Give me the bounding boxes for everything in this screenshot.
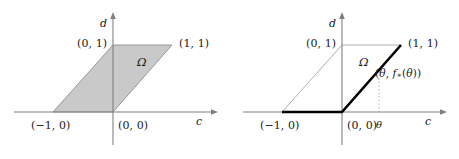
left-point-label-1-1: (1, 1) xyxy=(179,38,209,49)
panel-shaded-region: d c (0, 1) (1, 1) (−1, 0) (0, 0) Ω xyxy=(0,0,229,159)
figure-container: d c (0, 1) (1, 1) (−1, 0) (0, 0) Ω d c (… xyxy=(0,0,459,159)
right-point-label-0-0: (0, 0) xyxy=(347,120,377,131)
right-point-label-0-1: (0, 1) xyxy=(306,38,336,49)
d-axis-arrowhead xyxy=(339,12,345,19)
left-omega-label: Ω xyxy=(137,57,147,69)
d-axis-arrowhead xyxy=(110,12,116,19)
right-omega-label: Ω xyxy=(359,57,369,69)
theta-axis-label: θ xyxy=(376,120,382,130)
panel-graph-region: d c (0, 1) (1, 1) (−1, 0) (0, 0) θ Ω (θ,… xyxy=(229,0,458,159)
curve-point-comma: , xyxy=(386,67,393,79)
c-axis-arrowhead xyxy=(440,109,447,115)
c-axis-arrowhead xyxy=(211,109,218,115)
left-panel-graphic xyxy=(0,0,229,159)
right-point-label-1-1: (1, 1) xyxy=(408,38,438,49)
right-panel-graphic xyxy=(229,0,458,159)
left-point-label-0-0: (0, 0) xyxy=(118,120,148,131)
left-c-axis-label: c xyxy=(196,116,202,127)
curve-point-label: (θ, f∗(θ)) xyxy=(375,68,421,80)
left-point-label-0-1: (0, 1) xyxy=(77,38,107,49)
right-d-axis-label: d xyxy=(329,18,336,29)
right-point-label-neg1-0: (−1, 0) xyxy=(260,120,300,131)
curve-point-close-paren: ) xyxy=(417,67,421,79)
left-d-axis-label: d xyxy=(100,18,107,29)
right-c-axis-label: c xyxy=(425,116,431,127)
left-point-label-neg1-0: (−1, 0) xyxy=(31,120,71,131)
